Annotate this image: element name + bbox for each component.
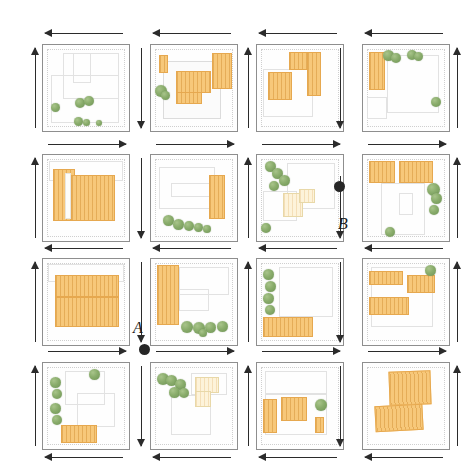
site-plan-matrix: B A [0,0,474,470]
courtyard-strip [65,173,71,219]
tree [263,293,274,304]
building-footprint [307,52,321,96]
tree [96,120,102,126]
tree [263,269,274,280]
tree [74,117,83,126]
flow-arrow-up [30,48,39,128]
cadastral-outline [73,53,91,83]
node-label-b: B [338,216,348,232]
flow-arrow-left [259,243,337,252]
plot-cell-r3c2[interactable] [150,258,238,346]
flow-arrow-right [48,346,126,355]
tree [89,369,100,380]
plot-cell-r1c2[interactable] [150,44,238,132]
plot-cell-r4c2[interactable] [150,362,238,450]
flow-arrow-left [365,28,443,37]
flow-arrow-up [30,158,39,238]
flow-arrow-left [365,452,443,461]
flow-arrow-left [45,243,123,252]
tree [50,403,61,414]
building-footprint [369,161,395,183]
building-footprint [263,317,313,337]
tree [414,52,423,61]
flow-arrow-up [452,158,461,238]
flow-arrow-up [243,48,252,128]
flow-arrow-right [156,346,234,355]
plot-cell-r3c4[interactable] [362,258,450,346]
cadastral-outline [279,267,333,317]
building-footprint [299,189,315,203]
tree [385,227,395,237]
flow-arrow-right [262,139,340,148]
tree [265,281,276,292]
tree [315,399,327,411]
plot-cell-r2c1[interactable] [42,154,130,242]
flow-arrow-up [243,366,252,446]
building-footprint [374,404,423,432]
flow-arrow-up [452,262,461,342]
node-marker-b-dot[interactable] [334,181,345,192]
building-footprint [212,53,232,89]
building-footprint [263,399,277,433]
plot-cell-r4c1[interactable] [42,362,130,450]
cadastral-outline [179,289,209,311]
tree [52,389,62,399]
tree [217,321,228,332]
tree [194,223,203,232]
flow-arrow-down [136,366,145,446]
plot-cell-r2c3[interactable] [256,154,344,242]
flow-arrow-up [30,366,39,446]
tree [269,181,279,191]
node-label-a: A [133,320,143,336]
building-footprint [195,391,211,407]
tree [265,305,275,315]
building-footprint [176,92,202,104]
plot-cell-r3c1[interactable] [42,258,130,346]
plot-cell-r4c4[interactable] [362,362,450,450]
tree [83,119,90,126]
plot-cell-r3c3[interactable] [256,258,344,346]
building-footprint [399,161,433,183]
flow-arrow-down [136,48,145,128]
tree [184,221,194,231]
building-footprint [388,370,431,405]
tree [431,193,442,204]
flow-arrow-down [335,366,344,446]
flow-arrow-left [45,452,123,461]
building-footprint [55,275,119,297]
plot-cell-r4c3[interactable] [256,362,344,450]
flow-arrow-left [259,28,337,37]
building-footprint [176,71,211,93]
building-footprint [268,72,292,100]
plot-cell-r1c1[interactable] [42,44,130,132]
flow-arrow-right [368,346,446,355]
tree [261,223,271,233]
flow-arrow-left [259,452,337,461]
tree [279,175,290,186]
flow-arrow-left [153,243,231,252]
tree [84,96,94,106]
tree [425,265,436,276]
flow-arrow-left [153,28,231,37]
flow-arrow-down [335,262,344,342]
building-footprint [209,175,225,219]
plot-cell-r2c2[interactable] [150,154,238,242]
tree [161,91,170,100]
plot-cell-r2c4[interactable] [362,154,450,242]
plot-cell-r1c3[interactable] [256,44,344,132]
flow-arrow-down [335,48,344,128]
flow-arrow-up [452,48,461,128]
flow-arrow-right [156,139,234,148]
flow-arrow-down [136,158,145,238]
cadastral-outline [265,371,327,395]
node-marker-a-dot[interactable] [139,344,150,355]
flow-arrow-up [243,158,252,238]
building-footprint [315,417,324,433]
tree [199,329,207,337]
flow-arrow-up [243,262,252,342]
tree [429,205,439,215]
flow-arrow-right [262,346,340,355]
tree [51,103,60,112]
flow-arrow-right [368,139,446,148]
plot-cell-r1c4[interactable] [362,44,450,132]
